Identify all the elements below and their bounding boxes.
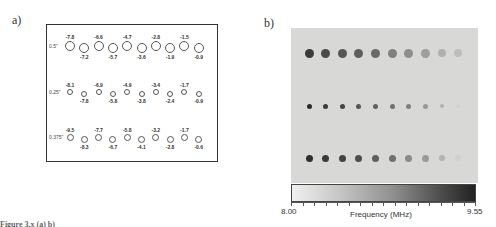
defect-circle (151, 41, 161, 51)
colorbar-tick (452, 203, 453, 206)
depth-value: -1.9 (163, 54, 177, 60)
depth-value: -9.5 (63, 127, 77, 133)
colorbar-title: Frequency (MHz) (350, 210, 412, 219)
depth-value: -6.6 (92, 34, 106, 40)
frequency-dot (388, 49, 397, 58)
panel-a-frame: 0.5"-7.8-7.2-6.6-5.7-4.7-3.6-2.8-1.9-1.5… (46, 24, 218, 162)
defect-circle (138, 136, 145, 143)
frequency-dot (456, 104, 460, 108)
colorbar-ticks (291, 202, 476, 206)
defect-circle (108, 43, 118, 53)
depth-value: -6.9 (92, 82, 106, 88)
frequency-dot (440, 104, 444, 108)
frequency-dot (372, 155, 379, 162)
frequency-dot (422, 155, 429, 162)
depth-value: -5.7 (106, 54, 120, 60)
defect-circle (167, 91, 173, 97)
colorbar-tick (326, 203, 327, 206)
depth-value: -0.9 (192, 54, 206, 60)
colorbar-tick (395, 203, 396, 206)
panel-a-label: a) (12, 13, 21, 28)
colorbar-tick (314, 203, 315, 206)
defect-circle (67, 89, 73, 95)
colorbar-tick (291, 203, 292, 206)
depth-value: -1.7 (177, 82, 191, 88)
defect-circle (95, 134, 102, 141)
colorbar-tick (372, 203, 373, 206)
depth-value: -6.7 (106, 144, 120, 150)
depth-value: -7.7 (92, 127, 106, 133)
frequency-dot (307, 104, 312, 109)
colorbar-tick (464, 203, 465, 206)
defect-circle (195, 136, 202, 143)
depth-value: -8.3 (77, 144, 91, 150)
frequency-dot (321, 49, 330, 58)
colorbar-tick (337, 203, 338, 206)
frequency-dot (405, 155, 412, 162)
defect-circle (110, 91, 116, 97)
colorbar-tick (475, 203, 476, 206)
frequency-dot (340, 104, 345, 109)
colorbar-tick (406, 203, 407, 206)
defect-circle (181, 134, 188, 141)
row-label: 0.25" (49, 89, 61, 95)
frequency-dot (356, 104, 361, 109)
defect-circle (124, 134, 131, 141)
depth-value: -7.8 (63, 34, 77, 40)
depth-value: -3.6 (135, 54, 149, 60)
colorbar-tick (429, 203, 430, 206)
depth-value: -8.1 (63, 82, 77, 88)
depth-value: -1.5 (177, 34, 191, 40)
defect-circle (65, 41, 75, 51)
frequency-dot (373, 104, 378, 109)
frequency-dot (306, 155, 313, 162)
panel-b-label: b) (264, 16, 274, 31)
depth-value: -3.4 (149, 82, 163, 88)
depth-value: -5.8 (106, 98, 120, 104)
frequency-dot (390, 104, 395, 109)
depth-value: -3.2 (149, 127, 163, 133)
frequency-dot (354, 49, 363, 58)
defect-circle (122, 41, 132, 51)
frequency-dot (355, 155, 362, 162)
colorbar (291, 184, 476, 202)
row-label: 0.5" (49, 43, 58, 49)
colorbar-min-label: 8.00 (281, 207, 297, 216)
colorbar-tick (349, 203, 350, 206)
depth-value: -2.4 (163, 98, 177, 104)
defect-circle (124, 89, 130, 95)
depth-value: -2.8 (163, 144, 177, 150)
colorbar-tick (441, 203, 442, 206)
frequency-dot (322, 155, 329, 162)
frequency-dot (423, 104, 428, 109)
defect-circle (181, 89, 187, 95)
depth-value: -4.9 (120, 82, 134, 88)
colorbar-max-label: 9.55 (467, 207, 483, 216)
row-label: 0.375" (49, 134, 63, 140)
defect-circle (67, 134, 74, 141)
frequency-dot (305, 49, 314, 58)
depth-value: -4.7 (120, 34, 134, 40)
depth-value: -2.8 (149, 34, 163, 40)
defect-circle (152, 134, 159, 141)
depth-value: -3.8 (135, 98, 149, 104)
colorbar-tick (303, 203, 304, 206)
depth-value: -7.2 (77, 54, 91, 60)
defect-circle (165, 43, 175, 53)
defect-circle (81, 136, 88, 143)
defect-circle (81, 91, 87, 97)
figure-caption: Figure 3.x (a) b) (0, 220, 55, 227)
frequency-dot (454, 49, 462, 57)
defect-circle (94, 41, 104, 51)
depth-value: -0.6 (192, 144, 206, 150)
frequency-dot (371, 49, 380, 58)
frequency-dot (406, 104, 411, 109)
frequency-dot (438, 49, 446, 57)
depth-value: -0.9 (192, 98, 206, 104)
frequency-dot (339, 155, 346, 162)
frequency-dot (323, 104, 328, 109)
defect-circle (79, 43, 89, 53)
defect-circle (167, 136, 174, 143)
frequency-dot (421, 49, 430, 58)
defect-circle (109, 136, 116, 143)
